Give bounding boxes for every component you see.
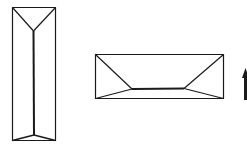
- wide-prism-right-hip: [184, 55, 224, 89]
- up-arrow-icon: [242, 68, 247, 100]
- up-arrow-head: [242, 68, 247, 78]
- tall-prism-bottom-left-hip: [13, 135, 35, 141]
- tall-prism-left-hip: [13, 8, 34, 32]
- wide-prism-left-lower-hip: [96, 89, 133, 99]
- wide-prism-right-lower-hip: [184, 89, 224, 99]
- tall-prism-drawing: [13, 8, 56, 141]
- tall-prism-right-hip: [34, 8, 56, 32]
- tall-prism-bottom-right-hip: [34, 135, 56, 141]
- tall-prism-ridge: [34, 31, 35, 135]
- up-arrow-shaft: [244, 76, 247, 100]
- wide-prism-outline: [96, 55, 224, 99]
- wide-prism-left-hip: [96, 55, 133, 90]
- wide-prism-ridge: [132, 89, 184, 90]
- wide-prism-drawing: [96, 55, 224, 99]
- diagram-canvas: [0, 0, 247, 149]
